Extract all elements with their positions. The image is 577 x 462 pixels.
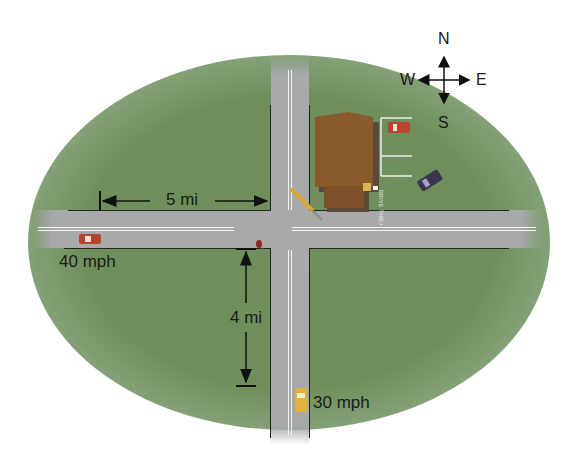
compass-north-label: N [438, 30, 450, 48]
intersection-diagram: DRIVE THRU [0, 0, 577, 462]
compass-south-label: S [438, 114, 449, 132]
compass-east-label: E [476, 71, 487, 89]
compass-west-label: W [400, 71, 415, 89]
compass-rose-icon [0, 0, 577, 462]
